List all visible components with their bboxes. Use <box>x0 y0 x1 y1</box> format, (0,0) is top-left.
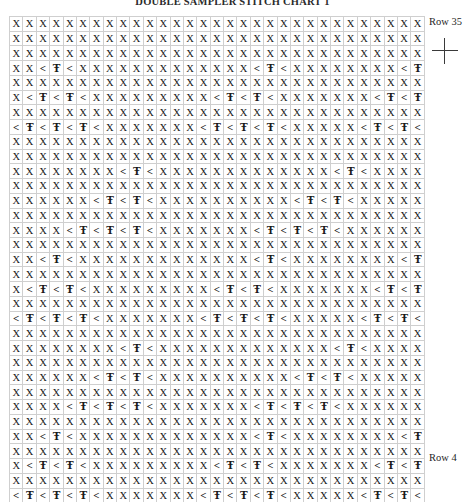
stitch-symbol: X <box>53 209 61 222</box>
stitch-symbol: X <box>106 327 114 340</box>
stitch-grid-body: XXXXXXXXXXXXXXXXXXXXXXXXXXXXXXXXXXXXXXXX… <box>10 17 425 502</box>
stitch-cell-upright: Ŧ <box>411 90 425 105</box>
stitch-symbol: X <box>347 209 355 222</box>
stitch-cell-upright: Ŧ <box>344 341 357 356</box>
stitch-symbol: < <box>414 488 420 501</box>
stitch-symbol: X <box>347 474 355 487</box>
stitch-symbol: X <box>200 194 208 207</box>
stitch-cell-x: X <box>384 223 397 238</box>
stitch-cell-x: X <box>23 341 36 356</box>
stitch-symbol: X <box>160 17 168 30</box>
stitch-cell-angled: < <box>277 61 290 76</box>
stitch-cell-x: X <box>317 208 330 223</box>
stitch-cell-upright: Ŧ <box>23 488 36 502</box>
stitch-symbol: X <box>173 386 181 399</box>
stitch-symbol: X <box>66 106 74 119</box>
stitch-cell-x: X <box>143 385 156 400</box>
stitch-symbol: X <box>106 47 114 60</box>
stitch-cell-x: X <box>197 179 210 194</box>
stitch-cell-x: X <box>371 400 384 415</box>
stitch-cell-x: X <box>277 459 290 474</box>
stitch-cell-x: X <box>344 473 357 488</box>
stitch-cell-x: X <box>357 414 370 429</box>
stitch-cell-x: X <box>143 105 156 120</box>
stitch-symbol: X <box>160 224 168 237</box>
stitch-symbol: X <box>347 430 355 443</box>
stitch-symbol: X <box>200 386 208 399</box>
stitch-symbol: < <box>13 488 19 501</box>
stitch-symbol: Ŧ <box>53 430 60 443</box>
stitch-cell-x: X <box>304 488 317 502</box>
stitch-cell-x: X <box>317 75 330 90</box>
stitch-symbol: X <box>293 76 301 89</box>
stitch-symbol: X <box>293 106 301 119</box>
stitch-cell-x: X <box>10 149 23 164</box>
stitch-cell-x: X <box>197 75 210 90</box>
stitch-symbol: X <box>119 430 127 443</box>
stitch-symbol: X <box>213 135 221 148</box>
stitch-cell-angled: < <box>357 488 370 502</box>
stitch-symbol: X <box>307 474 315 487</box>
stitch-cell-x: X <box>117 208 130 223</box>
stitch-symbol: X <box>39 371 47 384</box>
stitch-cell-x: X <box>117 267 130 282</box>
stitch-cell-x: X <box>50 414 63 429</box>
stitch-symbol: X <box>200 356 208 369</box>
stitch-cell-angled: < <box>264 90 277 105</box>
stitch-cell-upright: Ŧ <box>130 193 143 208</box>
stitch-grid-row: <Ŧ<Ŧ<Ŧ<XXXXXXX<Ŧ<Ŧ<Ŧ<XXXXX<Ŧ<Ŧ< <box>10 488 425 502</box>
stitch-cell-x: X <box>197 370 210 385</box>
stitch-cell-x: X <box>264 31 277 46</box>
stitch-symbol: X <box>374 32 382 45</box>
stitch-symbol: < <box>93 370 99 383</box>
stitch-cell-x: X <box>411 179 425 194</box>
stitch-cell-angled: < <box>371 459 384 474</box>
stitch-symbol: X <box>26 445 34 458</box>
stitch-symbol: < <box>240 91 246 104</box>
stitch-cell-x: X <box>371 267 384 282</box>
stitch-cell-x: X <box>237 75 250 90</box>
stitch-symbol: X <box>133 17 141 30</box>
stitch-cell-x: X <box>103 252 116 267</box>
stitch-cell-x: X <box>317 414 330 429</box>
stitch-symbol: Ŧ <box>307 371 314 384</box>
stitch-symbol: X <box>414 371 422 384</box>
stitch-cell-angled: < <box>36 488 49 502</box>
stitch-cell-x: X <box>130 473 143 488</box>
stitch-symbol: X <box>307 459 315 472</box>
stitch-cell-x: X <box>304 105 317 120</box>
stitch-symbol: X <box>160 121 168 134</box>
stitch-cell-x: X <box>237 370 250 385</box>
stitch-symbol: X <box>26 238 34 251</box>
stitch-cell-x: X <box>277 326 290 341</box>
stitch-cell-x: X <box>170 164 183 179</box>
stitch-cell-x: X <box>157 444 170 459</box>
stitch-symbol: X <box>133 76 141 89</box>
stitch-symbol: < <box>374 91 380 104</box>
stitch-cell-x: X <box>76 164 89 179</box>
stitch-cell-x: X <box>90 355 103 370</box>
stitch-symbol: Ŧ <box>253 91 260 104</box>
stitch-symbol: X <box>26 47 34 60</box>
stitch-symbol: X <box>119 459 127 472</box>
stitch-cell-x: X <box>76 238 89 253</box>
stitch-symbol: X <box>360 76 368 89</box>
stitch-cell-x: X <box>210 429 223 444</box>
stitch-symbol: X <box>307 135 315 148</box>
stitch-cell-angled: < <box>117 400 130 415</box>
stitch-symbol: X <box>39 238 47 251</box>
stitch-cell-x: X <box>50 385 63 400</box>
stitch-cell-x: X <box>170 179 183 194</box>
stitch-symbol: X <box>240 253 248 266</box>
stitch-symbol: X <box>53 238 61 251</box>
stitch-symbol: X <box>267 17 275 30</box>
stitch-symbol: X <box>12 474 20 487</box>
stitch-symbol: X <box>160 474 168 487</box>
stitch-cell-x: X <box>10 459 23 474</box>
stitch-symbol: X <box>253 386 261 399</box>
stitch-symbol: X <box>333 209 341 222</box>
stitch-symbol: X <box>173 17 181 30</box>
stitch-cell-x: X <box>210 252 223 267</box>
stitch-symbol: X <box>79 238 87 251</box>
stitch-symbol: Ŧ <box>213 312 220 325</box>
